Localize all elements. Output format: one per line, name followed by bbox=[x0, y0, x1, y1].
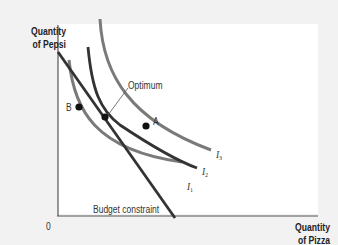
y-axis-label: Quantity of Pepsi bbox=[10, 25, 66, 50]
x-axis-label-line1: Quantity bbox=[273, 221, 330, 234]
budget-constraint-label: Budget constraint bbox=[93, 204, 159, 215]
optimum-point bbox=[101, 113, 108, 120]
curve-i3-label: I3 bbox=[216, 148, 222, 162]
optimum-label: Optimum bbox=[128, 80, 162, 91]
point-b-label: B bbox=[66, 102, 72, 113]
y-axis-label-line1: Quantity bbox=[10, 25, 66, 38]
y-axis-label-line2: of Pepsi bbox=[10, 38, 66, 51]
indifference-curve-i2 bbox=[88, 47, 197, 168]
point-a bbox=[142, 122, 149, 129]
point-b bbox=[75, 103, 82, 110]
curve-i1-label: I1 bbox=[187, 180, 193, 194]
optimum-pointer bbox=[108, 88, 128, 115]
x-axis-label: Quantity of Pizza bbox=[273, 221, 330, 245]
origin-label: 0 bbox=[46, 221, 51, 232]
x-axis-label-line2: of Pizza bbox=[273, 234, 330, 245]
point-a-label: A bbox=[153, 116, 159, 127]
curve-i2-label: I2 bbox=[202, 165, 208, 179]
